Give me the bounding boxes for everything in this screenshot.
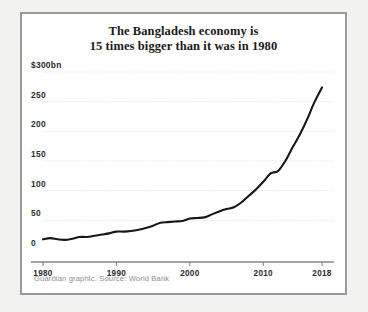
y-axis-tick-label: 50 <box>31 208 41 218</box>
x-axis-tick-label: 2010 <box>254 269 274 278</box>
x-axis-group <box>31 262 334 266</box>
x-axis-tick-label: 2000 <box>180 269 200 278</box>
gridlines-group <box>43 72 334 220</box>
y-axis-tick-label: 0 <box>31 238 36 248</box>
data-series-group <box>43 87 322 239</box>
source-caption: Guardian graphic. Source: World Bank <box>34 274 169 283</box>
y-axis-labels-group: 050100150200250$300bn <box>31 60 62 248</box>
y-axis-tick-label: 100 <box>31 179 46 189</box>
y-axis-tick-label: 150 <box>31 149 46 159</box>
screenshot-page: The Bangladesh economy is 15 times bigge… <box>0 0 368 312</box>
y-axis-tick-label: 250 <box>31 90 46 100</box>
data-series-line <box>43 87 322 239</box>
line-chart-plot: 050100150200250$300bn 198019902000201020… <box>22 14 349 297</box>
y-axis-tick-label: 200 <box>31 119 46 129</box>
y-axis-tick-label: $300bn <box>31 60 62 70</box>
chart-figure-frame: The Bangladesh economy is 15 times bigge… <box>20 12 347 295</box>
x-axis-tick-label: 2018 <box>312 269 332 278</box>
